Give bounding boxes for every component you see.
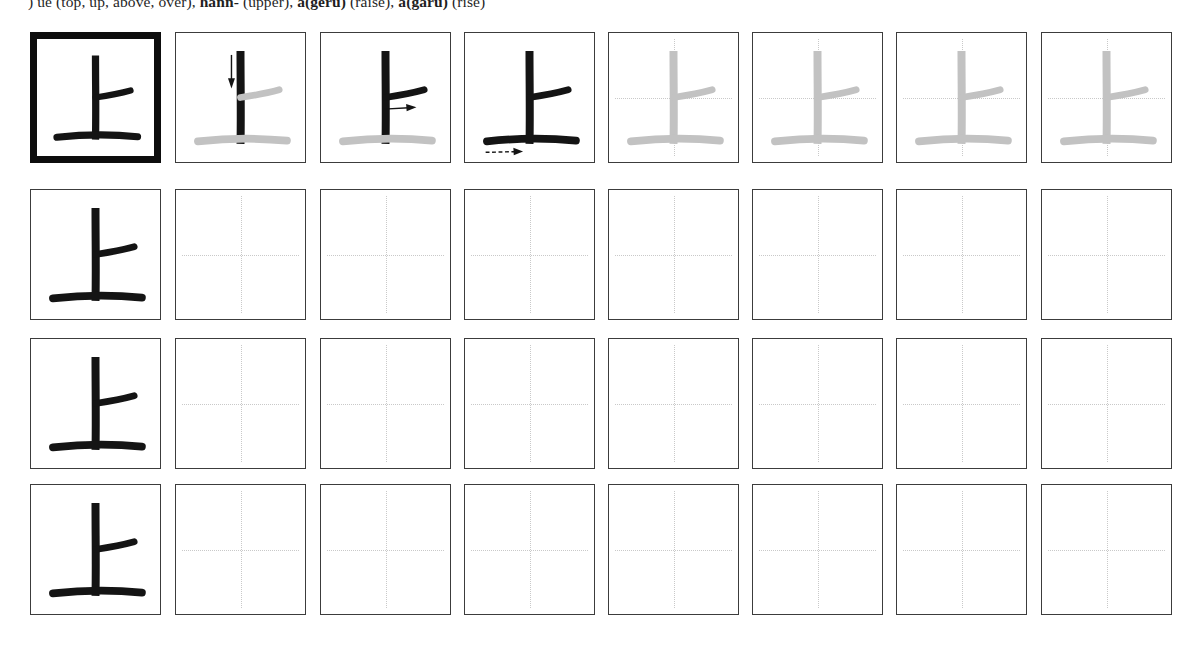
horizontal-guide-line	[759, 550, 875, 551]
kanji-glyph	[1042, 33, 1171, 162]
stroke-3	[53, 591, 142, 594]
practice-row-1	[30, 189, 1173, 322]
stroke-2	[962, 90, 1001, 98]
blank-practice-cell[interactable]	[752, 484, 883, 615]
kanji-glyph	[31, 485, 160, 614]
gloss-prefix: ) ue (top, up, above, over),	[28, 0, 200, 10]
model-character	[30, 484, 161, 615]
stroke-step-1	[175, 32, 306, 163]
vertical-guide-line	[818, 345, 819, 461]
reading-hann: hann-	[200, 0, 239, 10]
blank-practice-cell[interactable]	[608, 484, 739, 615]
stroke-2	[674, 90, 713, 98]
kanji-glyph	[176, 33, 305, 162]
blank-practice-cell[interactable]	[752, 338, 883, 469]
kanji-glyph	[753, 33, 882, 162]
vertical-guide-line	[1107, 345, 1108, 461]
blank-practice-cell[interactable]	[896, 189, 1027, 320]
horizontal-guide-line	[759, 255, 875, 256]
gloss-rise: (rise)	[448, 0, 485, 10]
vertical-guide-line	[674, 196, 675, 312]
horizontal-guide-line	[615, 255, 731, 256]
vertical-guide-line	[962, 196, 963, 312]
horizontal-guide-line	[759, 404, 875, 405]
horizontal-guide-line	[615, 550, 731, 551]
kanji-glyph	[321, 33, 450, 162]
vertical-guide-line	[386, 345, 387, 461]
stroke-2	[96, 247, 135, 255]
horizontal-guide-line	[471, 404, 587, 405]
vertical-guide-line	[674, 491, 675, 607]
vertical-guide-line	[818, 491, 819, 607]
model-character	[30, 32, 161, 163]
reading-agaru: a(garu)	[398, 0, 448, 10]
blank-practice-cell[interactable]	[464, 484, 595, 615]
stroke-3	[775, 139, 864, 142]
stroke-2	[96, 542, 135, 550]
stroke-3	[1064, 139, 1153, 142]
blank-practice-cell[interactable]	[1041, 189, 1172, 320]
reading-ageru: a(geru)	[297, 0, 346, 10]
vertical-guide-line	[530, 196, 531, 312]
stroke-3	[198, 139, 287, 142]
stroke-2	[241, 90, 280, 98]
entry-gloss-line: ) ue (top, up, above, over), hann- (uppe…	[28, 0, 1188, 11]
vertical-guide-line	[962, 345, 963, 461]
stroke-2	[818, 90, 857, 98]
vertical-guide-line	[241, 196, 242, 312]
model-character	[30, 189, 161, 320]
stroke-3	[631, 139, 720, 142]
stroke-2	[96, 90, 131, 97]
stroke-2	[96, 396, 135, 404]
blank-practice-cell[interactable]	[320, 338, 451, 469]
horizontal-guide-line	[1048, 255, 1164, 256]
blank-practice-cell[interactable]	[175, 189, 306, 320]
blank-practice-cell[interactable]	[1041, 484, 1172, 615]
model-character	[30, 338, 161, 469]
trace-cell	[1041, 32, 1172, 163]
kanji-glyph	[465, 33, 594, 162]
stroke-3	[919, 139, 1008, 142]
stroke-2	[1107, 90, 1146, 98]
blank-practice-cell[interactable]	[896, 338, 1027, 469]
vertical-guide-line	[1107, 196, 1108, 312]
stroke-3	[487, 139, 576, 142]
horizontal-guide-line	[182, 404, 298, 405]
stroke-order-row	[30, 32, 1173, 165]
blank-practice-cell[interactable]	[175, 338, 306, 469]
stroke-2	[530, 90, 569, 98]
blank-practice-cell[interactable]	[464, 189, 595, 320]
blank-practice-cell[interactable]	[896, 484, 1027, 615]
vertical-guide-line	[530, 491, 531, 607]
blank-practice-cell[interactable]	[320, 189, 451, 320]
horizontal-guide-line	[182, 550, 298, 551]
vertical-guide-line	[1107, 491, 1108, 607]
vertical-guide-line	[386, 491, 387, 607]
blank-practice-cell[interactable]	[464, 338, 595, 469]
horizontal-guide-line	[1048, 550, 1164, 551]
horizontal-guide-line	[182, 255, 298, 256]
blank-practice-cell[interactable]	[175, 484, 306, 615]
blank-practice-cell[interactable]	[608, 338, 739, 469]
blank-practice-cell[interactable]	[320, 484, 451, 615]
horizontal-guide-line	[903, 404, 1019, 405]
gloss-upper: (upper),	[239, 0, 297, 10]
vertical-guide-line	[530, 345, 531, 461]
blank-practice-cell[interactable]	[752, 189, 883, 320]
gloss-raise: (raise),	[346, 0, 398, 10]
kanji-glyph	[609, 33, 738, 162]
blank-practice-cell[interactable]	[1041, 338, 1172, 469]
horizontal-guide-line	[471, 255, 587, 256]
blank-practice-cell[interactable]	[608, 189, 739, 320]
vertical-guide-line	[241, 491, 242, 607]
horizontal-guide-line	[327, 255, 443, 256]
vertical-guide-line	[386, 196, 387, 312]
stroke-3	[53, 296, 142, 299]
practice-grid	[30, 32, 1173, 614]
vertical-guide-line	[962, 491, 963, 607]
kanji-glyph	[31, 339, 160, 468]
stroke-3	[53, 445, 142, 448]
vertical-guide-line	[674, 345, 675, 461]
horizontal-guide-line	[903, 550, 1019, 551]
stroke-3	[343, 139, 432, 142]
